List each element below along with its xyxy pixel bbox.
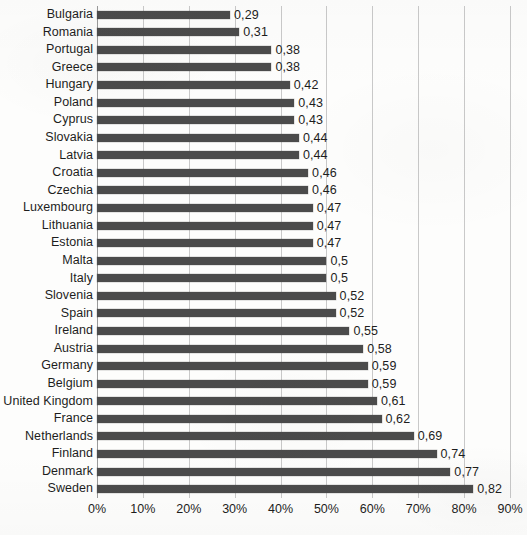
bar-value-label: 0,5 — [330, 271, 348, 285]
bar-value-label: 0,31 — [243, 25, 268, 39]
bar-value-label: 0,77 — [454, 464, 479, 478]
bar-row: 0,46 — [97, 182, 510, 200]
bar-row: 0,55 — [97, 322, 510, 340]
category-label: United Kingdom — [3, 393, 93, 411]
bar — [97, 28, 239, 36]
x-tick-label: 90% — [497, 502, 522, 516]
bar — [97, 63, 271, 71]
bar-value-label: 0,69 — [418, 429, 443, 443]
bar-value-label: 0,46 — [312, 166, 337, 180]
category-label: Latvia — [59, 147, 93, 165]
category-label: France — [54, 410, 93, 428]
bar-value-label: 0,58 — [367, 341, 392, 355]
bar-value-label: 0,43 — [298, 95, 323, 109]
bar-value-label: 0,5 — [330, 254, 348, 268]
category-label: Italy — [70, 270, 93, 288]
x-tick-label: 60% — [360, 502, 385, 516]
bar-row: 0,47 — [97, 234, 510, 252]
category-label: Denmark — [42, 463, 93, 481]
bar-value-label: 0,62 — [386, 412, 411, 426]
category-label: Estonia — [51, 234, 93, 252]
bar-value-label: 0,29 — [234, 8, 259, 22]
bar-row: 0,38 — [97, 59, 510, 77]
bar-row: 0,44 — [97, 129, 510, 147]
bar-value-label: 0,61 — [381, 394, 406, 408]
x-axis-tick-labels: 0%10%20%30%40%50%60%70%80%90% — [97, 502, 510, 524]
category-label: Greece — [52, 59, 93, 77]
bar — [97, 257, 326, 265]
bar-row: 0,31 — [97, 24, 510, 42]
gridline-90pct — [510, 6, 511, 498]
x-tick-label: 80% — [452, 502, 477, 516]
bar-value-label: 0,74 — [441, 447, 466, 461]
bar-row: 0,62 — [97, 410, 510, 428]
bar-value-label: 0,52 — [340, 306, 365, 320]
bar-chart: 0,290,310,380,380,420,430,430,440,440,46… — [0, 0, 527, 535]
bar-value-label: 0,52 — [340, 289, 365, 303]
bar — [97, 134, 299, 142]
bar-value-label: 0,44 — [303, 131, 328, 145]
plot-area: 0,290,310,380,380,420,430,430,440,440,46… — [97, 6, 510, 498]
category-label: Sweden — [48, 480, 93, 498]
bar-row: 0,5 — [97, 252, 510, 270]
bar — [97, 151, 299, 159]
bar — [97, 415, 382, 423]
bar-row: 0,47 — [97, 199, 510, 217]
bar-row: 0,5 — [97, 270, 510, 288]
x-tick-label: 30% — [222, 502, 247, 516]
bar-value-label: 0,59 — [372, 377, 397, 391]
category-label: Germany — [41, 357, 93, 375]
category-label: Romania — [43, 24, 93, 42]
category-label: Lithuania — [42, 217, 93, 235]
category-label: Croatia — [52, 164, 93, 182]
bar-value-label: 0,38 — [275, 60, 300, 74]
bar-value-label: 0,82 — [477, 482, 502, 496]
bar-value-label: 0,44 — [303, 148, 328, 162]
bar — [97, 450, 437, 458]
bar-row: 0,42 — [97, 76, 510, 94]
category-label: Spain — [61, 305, 93, 323]
bar-row: 0,58 — [97, 340, 510, 358]
category-label: Malta — [62, 252, 93, 270]
bar-value-label: 0,38 — [275, 43, 300, 57]
x-tick-label: 70% — [406, 502, 431, 516]
bar — [97, 239, 313, 247]
bar-row: 0,43 — [97, 94, 510, 112]
category-label: Cyprus — [53, 111, 93, 129]
x-tick-label: 0% — [88, 502, 106, 516]
x-tick-label: 10% — [130, 502, 155, 516]
bar-value-label: 0,46 — [312, 183, 337, 197]
bar-row: 0,52 — [97, 287, 510, 305]
bar-value-label: 0,47 — [317, 218, 342, 232]
bar-row: 0,47 — [97, 217, 510, 235]
bar-row: 0,29 — [97, 6, 510, 24]
category-label: Austria — [54, 340, 93, 358]
category-label: Poland — [54, 94, 93, 112]
category-label: Bulgaria — [47, 6, 93, 24]
bar-row: 0,44 — [97, 147, 510, 165]
bar-row: 0,82 — [97, 480, 510, 498]
category-label: Ireland — [54, 322, 93, 340]
x-tick-label: 40% — [268, 502, 293, 516]
category-label: Netherlands — [25, 428, 93, 446]
bar-row: 0,69 — [97, 428, 510, 446]
bar — [97, 380, 368, 388]
bar-row: 0,77 — [97, 463, 510, 481]
x-tick-label: 50% — [314, 502, 339, 516]
bar — [97, 11, 230, 19]
bar — [97, 222, 313, 230]
bar-row: 0,52 — [97, 305, 510, 323]
category-label: Hungary — [45, 76, 93, 94]
bar-value-label: 0,43 — [298, 113, 323, 127]
category-label: Belgium — [47, 375, 93, 393]
bar — [97, 292, 336, 300]
bar-value-label: 0,47 — [317, 236, 342, 250]
bar — [97, 116, 294, 124]
bar-row: 0,46 — [97, 164, 510, 182]
bar — [97, 186, 308, 194]
bar — [97, 327, 349, 335]
bar-row: 0,74 — [97, 445, 510, 463]
bar — [97, 309, 336, 317]
bar — [97, 81, 290, 89]
bar-row: 0,59 — [97, 357, 510, 375]
